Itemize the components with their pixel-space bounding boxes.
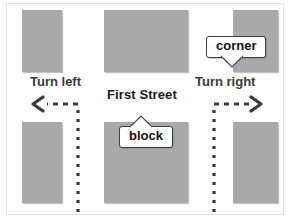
callout-block-tail-icon (130, 115, 152, 127)
city-block-bottom-left (22, 122, 62, 203)
city-block-top-left (22, 10, 62, 72)
callout-corner-tail-icon (221, 56, 243, 68)
street-map-figure: First Street Turn left Turn right corner… (0, 0, 292, 222)
callout-block: block (119, 126, 173, 148)
city-block-top-middle (104, 10, 188, 72)
callout-corner: corner (206, 36, 266, 58)
turn-left-label: Turn left (30, 74, 81, 89)
street-name-label: First Street (107, 87, 177, 102)
city-block-bottom-right (233, 122, 278, 203)
turn-right-label: Turn right (195, 74, 255, 89)
